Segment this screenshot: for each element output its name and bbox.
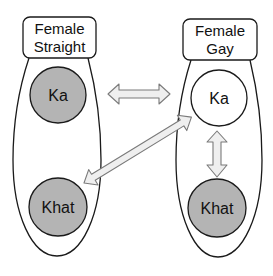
node-straight-khat: Khat xyxy=(29,178,87,236)
node-gay-ka: Ka xyxy=(191,70,247,126)
diagram-canvas: Female Straight Ka Khat Female Gay Ka Kh… xyxy=(0,0,273,276)
node-label: Ka xyxy=(209,90,229,107)
double-arrow-diagonal xyxy=(79,109,196,190)
node-label: Ka xyxy=(48,87,68,104)
node-straight-ka: Ka xyxy=(30,67,86,123)
group-label-line2: Straight xyxy=(34,38,87,55)
group-label-line1: Female xyxy=(195,22,245,39)
group-female-straight: Female Straight Ka Khat xyxy=(13,17,101,256)
group-label-line2: Gay xyxy=(206,40,234,57)
node-label: Khat xyxy=(42,199,75,216)
double-arrow-vertical xyxy=(207,131,227,177)
node-gay-khat: Khat xyxy=(188,179,246,237)
double-arrow-horizontal xyxy=(108,84,170,104)
group-label-line1: Female xyxy=(34,20,84,37)
node-label: Khat xyxy=(201,200,234,217)
